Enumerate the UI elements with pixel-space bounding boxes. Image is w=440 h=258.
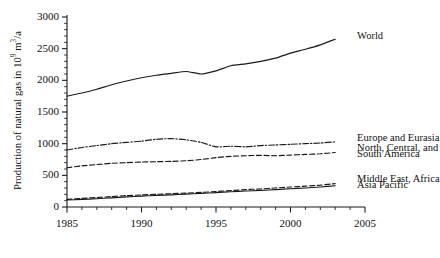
chart-figure: Production of natural gas in 109 m3/a 05…	[0, 0, 440, 258]
y-tick-label-1000: 1000	[19, 138, 59, 149]
series-layer	[67, 39, 335, 200]
y-tick-label-0: 0	[19, 201, 59, 212]
series-annotation-world: World	[357, 30, 383, 42]
y-tick-label-500: 500	[19, 169, 59, 180]
series-line-world	[67, 39, 335, 96]
x-tick-label-1990: 1990	[117, 218, 167, 229]
series-annotation-south-america: South America	[357, 148, 420, 160]
series-line-north-central-and-south-america	[67, 153, 335, 168]
y-tick-label-2500: 2500	[19, 43, 59, 54]
y-tick-label-1500: 1500	[19, 106, 59, 117]
x-tick-label-1985: 1985	[42, 218, 92, 229]
axis-lines	[67, 15, 365, 207]
series-annotation-asia-pacific: Asia Pacific	[357, 179, 408, 191]
y-axis-ticks	[62, 17, 67, 207]
series-line-europe-and-eurasia	[67, 139, 335, 150]
x-tick-label-1995: 1995	[191, 218, 241, 229]
x-axis-ticks	[67, 207, 365, 213]
y-tick-label-3000: 3000	[19, 11, 59, 22]
series-line-middle-east-africa	[67, 184, 335, 200]
x-tick-label-2005: 2005	[340, 218, 390, 229]
y-tick-label-2000: 2000	[19, 74, 59, 85]
series-line-asia-pacific	[67, 186, 335, 200]
x-tick-label-2000: 2000	[266, 218, 316, 229]
